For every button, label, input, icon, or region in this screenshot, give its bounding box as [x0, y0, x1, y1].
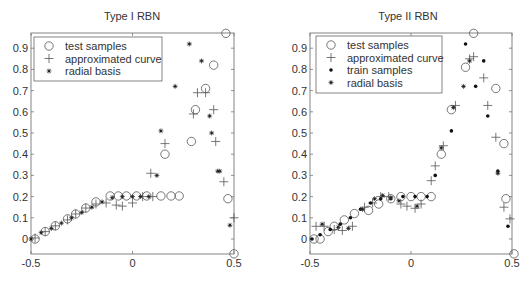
plot-area: 00.10.20.30.40.50.60.70.80.9-0.500.5test… [13, 29, 242, 269]
data-point-dot [482, 59, 486, 63]
data-point-circle [191, 105, 199, 113]
data-point-star [388, 195, 393, 200]
x-tick-label: 0 [408, 257, 414, 269]
x-tick-label: 0.5 [504, 257, 519, 269]
data-point-circle [161, 150, 169, 158]
data-point-dot [369, 201, 373, 205]
y-tick-label: 0 [301, 233, 307, 245]
data-point-plus [209, 105, 218, 114]
data-point-plus [189, 109, 198, 118]
data-point-dot [339, 222, 343, 226]
data-point-star [461, 84, 466, 89]
data-point-star [207, 114, 212, 119]
y-tick-label: 0.8 [292, 63, 307, 75]
y-tick-label: 0.3 [292, 169, 307, 181]
y-tick-label: 0.3 [13, 169, 28, 181]
data-point-star [346, 226, 351, 231]
data-point-star [49, 226, 54, 231]
data-point-dot [433, 174, 437, 178]
data-point-star [227, 223, 232, 228]
data-point-star [59, 221, 64, 226]
data-point-circle [224, 195, 232, 203]
y-tick-label: 0.5 [13, 127, 28, 139]
data-point-star [120, 194, 125, 199]
y-tick-label: 0.9 [292, 42, 307, 54]
data-point-dot [486, 114, 490, 118]
data-point-star [29, 237, 34, 242]
data-point-plus [219, 177, 228, 186]
data-point-plus [146, 169, 155, 178]
data-point-plus [505, 214, 514, 223]
data-point-dot [413, 195, 417, 199]
x-tick-label: -0.5 [301, 257, 320, 269]
y-tick-label: 0.4 [13, 148, 28, 160]
data-point-dot [318, 233, 322, 237]
data-point-dot [310, 237, 314, 241]
data-point-plus [427, 176, 436, 185]
data-point-star [467, 58, 472, 63]
data-point-star [146, 194, 151, 199]
y-tick-label: 0.9 [13, 42, 28, 54]
data-point-plus [118, 202, 127, 211]
data-point-star [39, 230, 44, 235]
data-point-plus [312, 222, 321, 231]
data-point-circle [437, 150, 445, 158]
data-point-circle [502, 195, 510, 203]
legend-label: train samples [347, 64, 413, 76]
y-tick-label: 0.6 [292, 106, 307, 118]
y-tick-label: 0.4 [292, 148, 307, 160]
data-point-circle [492, 84, 500, 92]
legend: test samplesapproximated curveradial bas… [34, 37, 162, 81]
legend-marker-star-icon [47, 69, 52, 74]
data-point-star [154, 173, 159, 178]
data-point-circle [500, 139, 508, 147]
x-tick-label: 0 [129, 257, 135, 269]
data-point-star [158, 128, 163, 133]
data-point-star [451, 105, 456, 110]
data-point-dot [349, 216, 353, 220]
data-point-star [372, 196, 377, 201]
legend-label: test samples [347, 39, 409, 51]
y-tick-label: 0.6 [13, 106, 28, 118]
data-point-plus [402, 202, 411, 211]
data-point-circle [175, 192, 183, 200]
y-tick-label: 0.1 [292, 212, 307, 224]
data-point-plus [193, 88, 202, 97]
data-point-star [199, 58, 204, 63]
chart-svg: Type II RBN 00.10.20.30.40.50.60.70.80.9… [265, 0, 530, 281]
data-point-dot [450, 129, 454, 133]
y-tick-label: 0.7 [13, 85, 28, 97]
legend: test samplesapproximated curvetrain samp… [316, 36, 444, 93]
y-tick-label: 0 [22, 233, 28, 245]
data-point-star [215, 169, 220, 174]
data-point-plus [112, 201, 121, 210]
data-point-plus [491, 133, 500, 142]
chart-svg: Type I RBN 00.10.20.30.40.50.60.70.80.9-… [0, 0, 265, 281]
data-point-dot [506, 224, 510, 228]
legend-marker-dot-icon [329, 68, 333, 72]
data-point-star [187, 41, 192, 46]
x-tick-label: -0.5 [22, 257, 41, 269]
data-point-dot [474, 85, 478, 89]
chart-title: Type I RBN [104, 10, 160, 22]
data-point-circle [187, 137, 195, 145]
chart-panel-type-ii-rbn: Type II RBN 00.10.20.30.40.50.60.70.80.9… [265, 0, 530, 281]
data-point-plus [201, 88, 210, 97]
y-tick-label: 0.5 [292, 127, 307, 139]
legend-label: approximated curve [65, 53, 162, 65]
plot-area: 00.10.20.30.40.50.60.70.80.9-0.500.5test… [292, 29, 520, 269]
data-point-dot [425, 195, 429, 199]
data-point-plus [230, 213, 239, 222]
data-point-circle [167, 192, 175, 200]
data-point-star [209, 131, 214, 136]
data-point-plus [479, 73, 488, 82]
data-point-star [100, 199, 105, 204]
data-point-star [173, 84, 178, 89]
data-point-star [138, 194, 143, 199]
data-point-star [495, 171, 500, 176]
y-tick-label: 0.7 [292, 85, 307, 97]
data-point-star [130, 194, 135, 199]
data-point-circle [210, 61, 218, 69]
legend-label: test samples [65, 40, 127, 52]
data-point-star [360, 207, 365, 212]
